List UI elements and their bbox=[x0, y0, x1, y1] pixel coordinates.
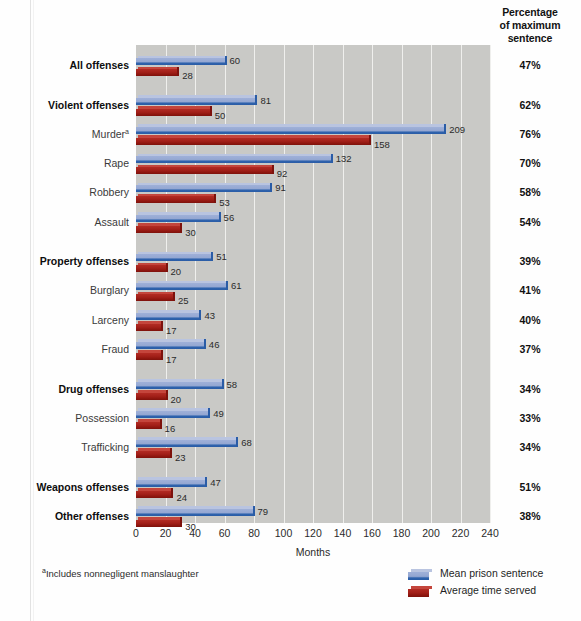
bar-served-rape bbox=[136, 167, 272, 174]
bar-served-burglary bbox=[136, 294, 173, 301]
bar-value-served-larceny: 17 bbox=[166, 325, 177, 336]
bar-value-mean-other-offenses: 79 bbox=[258, 506, 269, 517]
bar-mean-other-offenses bbox=[136, 509, 253, 516]
bar-mean-murder bbox=[136, 127, 444, 134]
percentage-value-rape: 70% bbox=[482, 157, 578, 169]
percentage-value-drug-offenses: 34% bbox=[482, 383, 578, 395]
percentage-value-property-offenses: 39% bbox=[482, 255, 578, 267]
percentage-column-header-line3: sentence bbox=[482, 32, 578, 45]
red-bar-swatch-icon bbox=[408, 586, 429, 595]
percentage-value-robbery: 58% bbox=[482, 186, 578, 198]
percentage-value-fraud: 37% bbox=[482, 343, 578, 355]
category-label-robbery: Robbery bbox=[0, 186, 129, 198]
percentage-column-header-line1: Percentage bbox=[482, 6, 578, 19]
category-label-drug-offenses: Drug offenses bbox=[0, 383, 129, 395]
bar-value-served-trafficking: 23 bbox=[175, 452, 186, 463]
bar-value-mean-larceny: 43 bbox=[204, 310, 215, 321]
x-tick-label-40: 40 bbox=[180, 527, 210, 539]
bar-mean-violent-offenses bbox=[136, 98, 255, 105]
page-edge-line-2 bbox=[33, 0, 34, 621]
category-label-text: Trafficking bbox=[81, 441, 129, 453]
legend-label-mean: Mean prison sentence bbox=[440, 567, 543, 579]
gridline-120 bbox=[313, 45, 314, 523]
category-label-murder: Murdera bbox=[0, 128, 129, 140]
bar-mean-robbery bbox=[136, 185, 270, 192]
category-label-text: Weapons offenses bbox=[36, 481, 129, 493]
bar-served-all-offenses bbox=[136, 69, 177, 76]
footnote: aIncludes nonnegligent manslaughter bbox=[42, 568, 199, 579]
category-label-text: Fraud bbox=[102, 343, 129, 355]
x-tick-label-140: 140 bbox=[328, 527, 358, 539]
category-label-all-offenses: All offenses bbox=[0, 59, 129, 71]
bar-served-robbery bbox=[136, 196, 214, 203]
percentage-value-other-offenses: 38% bbox=[482, 510, 578, 522]
category-label-text: Violent offenses bbox=[48, 99, 129, 111]
category-label-possession: Possession bbox=[0, 412, 129, 424]
bar-value-mean-possession: 49 bbox=[213, 408, 224, 419]
gridline-140 bbox=[343, 45, 344, 523]
bar-served-violent-offenses bbox=[136, 109, 210, 116]
x-tick-label-100: 100 bbox=[269, 527, 299, 539]
bar-value-mean-robbery: 91 bbox=[275, 182, 286, 193]
gridline-220 bbox=[461, 45, 462, 523]
blue-bar-swatch-icon bbox=[408, 569, 429, 578]
x-tick-label-160: 160 bbox=[357, 527, 387, 539]
bar-value-mean-murder: 209 bbox=[449, 124, 465, 135]
percentage-value-violent-offenses: 62% bbox=[482, 99, 578, 111]
x-tick-label-180: 180 bbox=[387, 527, 417, 539]
bar-value-mean-property-offenses: 51 bbox=[216, 251, 227, 262]
category-label-text: Robbery bbox=[89, 186, 129, 198]
category-label-trafficking: Trafficking bbox=[0, 441, 129, 453]
category-label-text: Drug offenses bbox=[58, 383, 129, 395]
bar-served-weapons-offenses bbox=[136, 491, 171, 498]
gridline-100 bbox=[284, 45, 285, 523]
x-tick-label-20: 20 bbox=[151, 527, 181, 539]
category-label-fraud: Fraud bbox=[0, 343, 129, 355]
category-label-other-offenses: Other offenses bbox=[0, 510, 129, 522]
gridline-200 bbox=[431, 45, 432, 523]
bar-value-served-robbery: 53 bbox=[219, 197, 230, 208]
bar-mean-weapons-offenses bbox=[136, 480, 205, 487]
bar-mean-assault bbox=[136, 215, 219, 222]
category-label-assault: Assault bbox=[0, 216, 129, 228]
bar-value-served-murder: 158 bbox=[374, 139, 390, 150]
bar-value-served-fraud: 17 bbox=[166, 354, 177, 365]
bar-served-possession bbox=[136, 422, 160, 429]
bar-served-trafficking bbox=[136, 451, 170, 458]
x-axis-title: Months bbox=[136, 546, 490, 558]
percentage-value-assault: 54% bbox=[482, 216, 578, 228]
bar-served-fraud bbox=[136, 353, 161, 360]
legend-label-served: Average time served bbox=[440, 584, 536, 596]
category-label-text: Assault bbox=[95, 216, 129, 228]
x-tick-label-240: 240 bbox=[475, 527, 505, 539]
bar-value-served-drug-offenses: 20 bbox=[171, 394, 182, 405]
bar-mean-possession bbox=[136, 411, 208, 418]
bar-served-other-offenses bbox=[136, 520, 180, 527]
percentage-column-header: Percentage of maximum sentence bbox=[482, 6, 578, 45]
bar-served-assault bbox=[136, 226, 180, 233]
bar-mean-all-offenses bbox=[136, 58, 225, 65]
x-tick-label-0: 0 bbox=[121, 527, 151, 539]
x-tick-label-220: 220 bbox=[446, 527, 476, 539]
bar-value-mean-all-offenses: 60 bbox=[230, 55, 241, 66]
x-tick-label-200: 200 bbox=[416, 527, 446, 539]
percentage-value-weapons-offenses: 51% bbox=[482, 481, 578, 493]
bar-value-mean-drug-offenses: 58 bbox=[227, 379, 238, 390]
category-label-text: All offenses bbox=[69, 59, 129, 71]
bar-value-served-possession: 16 bbox=[165, 423, 176, 434]
category-footnote-marker: a bbox=[125, 127, 129, 134]
category-label-text: Burglary bbox=[90, 284, 129, 296]
category-label-property-offenses: Property offenses bbox=[0, 255, 129, 267]
percentage-value-burglary: 41% bbox=[482, 284, 578, 296]
category-label-text: Possession bbox=[75, 412, 129, 424]
bar-mean-burglary bbox=[136, 283, 226, 290]
bar-value-mean-trafficking: 68 bbox=[241, 437, 252, 448]
percentage-value-larceny: 40% bbox=[482, 314, 578, 326]
bar-value-mean-fraud: 46 bbox=[209, 339, 220, 350]
bar-mean-larceny bbox=[136, 313, 199, 320]
gridline-160 bbox=[372, 45, 373, 523]
category-label-text: Other offenses bbox=[55, 510, 129, 522]
bar-value-served-burglary: 25 bbox=[178, 295, 189, 306]
bar-value-served-violent-offenses: 50 bbox=[215, 110, 226, 121]
bar-value-mean-assault: 56 bbox=[224, 212, 235, 223]
